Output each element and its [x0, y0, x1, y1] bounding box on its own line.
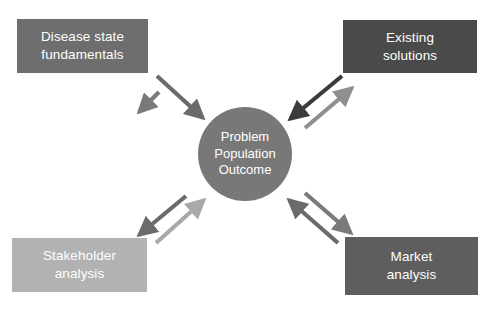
connector-arrow [139, 92, 159, 112]
node-label-line: Disease state [41, 28, 124, 46]
node-disease-state-fundamentals[interactable]: Disease state fundamentals [17, 19, 148, 73]
connector-arrow [290, 76, 342, 119]
node-label-line: fundamentals [41, 46, 124, 64]
connector-arrow [305, 88, 352, 128]
node-existing-solutions[interactable]: Existing solutions [343, 20, 477, 73]
connector-arrow [305, 193, 351, 233]
connector-arrow [289, 200, 338, 243]
hub-problem-population-outcome[interactable]: Problem Population Outcome [198, 107, 292, 201]
hub-label-line: Population [214, 146, 275, 163]
node-label-line: Market [387, 248, 437, 266]
node-label-line: analysis [43, 265, 116, 283]
connector-arrow [139, 196, 186, 235]
node-label-line: analysis [387, 266, 437, 284]
node-label-line: Existing [383, 29, 437, 47]
node-label-line: Stakeholder [43, 247, 116, 265]
connector-arrow [157, 76, 203, 118]
hub-label-line: Outcome [219, 162, 272, 179]
node-market-analysis[interactable]: Market analysis [345, 237, 478, 295]
connector-arrow [156, 200, 204, 243]
hub-label-line: Problem [221, 129, 269, 146]
node-label-line: solutions [383, 47, 437, 65]
diagram-canvas: Disease state fundamentals Existing solu… [0, 0, 493, 312]
node-stakeholder-analysis[interactable]: Stakeholder analysis [12, 238, 147, 292]
